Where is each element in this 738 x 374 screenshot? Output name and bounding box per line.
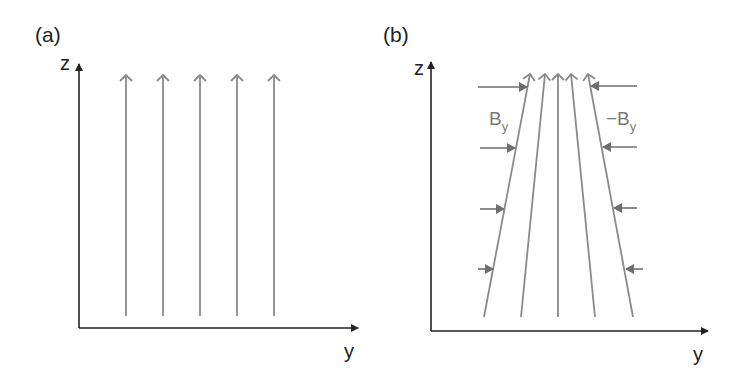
left-field-label: By — [489, 108, 509, 134]
figure-canvas: (a) z y (b) z y — [0, 0, 738, 374]
panel-b: (b) z y By −By — [383, 23, 708, 365]
field-line-arrow — [571, 74, 595, 317]
panel-a: (a) z y — [35, 23, 358, 362]
right-field-label: −By — [606, 108, 637, 134]
y-axis-label: y — [344, 340, 354, 362]
z-axis-label: z — [60, 52, 70, 74]
y-axis-label: y — [693, 343, 703, 365]
field-line-arrow — [521, 74, 545, 317]
z-axis-label: z — [414, 57, 424, 79]
panel-b-label: (b) — [383, 23, 409, 46]
panel-a-label: (a) — [35, 23, 61, 46]
